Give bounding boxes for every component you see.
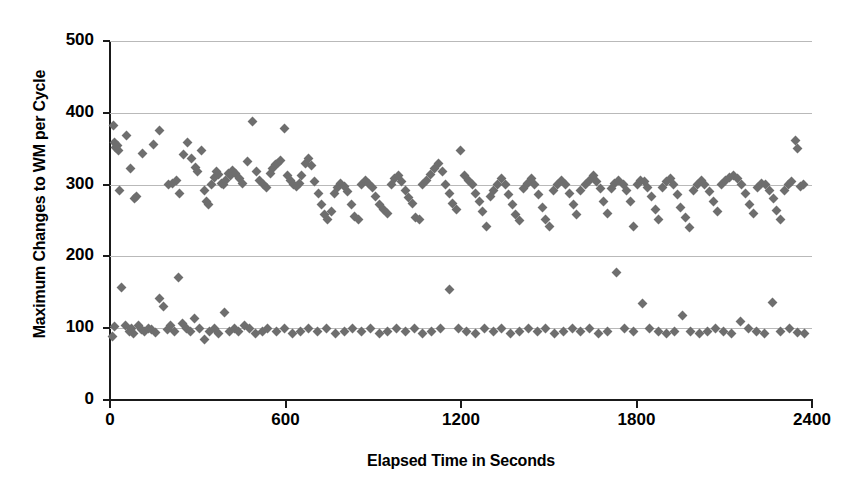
scatter-point: [545, 221, 555, 231]
x-tick-2400: [811, 401, 813, 408]
scatter-point: [195, 323, 205, 333]
scatter-point: [444, 188, 454, 198]
scatter-point: [735, 316, 745, 326]
scatter-point: [455, 145, 465, 155]
scatter-point: [151, 328, 161, 338]
scatter-point: [541, 323, 551, 333]
scatter-point: [497, 323, 507, 333]
scatter-point: [672, 190, 682, 200]
x-tick-1200: [460, 401, 462, 408]
scatter-point: [530, 180, 540, 190]
scatter-point: [117, 283, 127, 293]
scatter-point: [173, 273, 183, 283]
scatter-point: [650, 204, 660, 214]
scatter-point: [109, 121, 119, 131]
y-tick-label-300: 300: [34, 174, 94, 194]
scatter-point: [684, 223, 694, 233]
scatter-point: [508, 200, 518, 210]
y-tick-label-0: 0: [34, 389, 94, 409]
x-tick-label-2400: 2400: [772, 410, 852, 430]
scatter-point: [183, 138, 193, 148]
y-tick-300: [103, 184, 110, 186]
scatter-point: [595, 184, 605, 194]
scatter-point: [676, 203, 686, 213]
scatter-point: [444, 284, 454, 294]
scatter-point: [654, 214, 664, 224]
scatter-point: [478, 207, 488, 217]
scatter-point: [313, 188, 323, 198]
scatter-point: [204, 200, 214, 210]
y-tick-label-100: 100: [34, 317, 94, 337]
y-tick-100: [103, 327, 110, 329]
scatter-point: [670, 326, 680, 336]
scatter-point: [279, 124, 289, 134]
x-axis-title: Elapsed Time in Seconds: [110, 452, 812, 470]
scatter-point: [760, 329, 770, 339]
scatter-point: [568, 200, 578, 210]
scatter-point: [585, 323, 595, 333]
scatter-point: [481, 221, 491, 231]
scatter-point: [316, 200, 326, 210]
scatter-point: [310, 177, 320, 187]
scatter-point: [365, 323, 375, 333]
scatter-point: [708, 197, 718, 207]
scatter-point: [647, 191, 657, 201]
scatter-point: [669, 180, 679, 190]
y-tick-label-400: 400: [34, 102, 94, 122]
scatter-point: [572, 210, 582, 220]
scatter-point: [712, 207, 722, 217]
scatter-point: [602, 326, 612, 336]
scatter-point: [321, 323, 331, 333]
x-tick-label-1800: 1800: [597, 410, 677, 430]
x-tick-label-600: 600: [246, 410, 326, 430]
scatter-point: [247, 116, 257, 126]
scatter-point: [740, 188, 750, 198]
scatter-point: [629, 221, 639, 231]
scatter-point: [436, 323, 446, 333]
scatter-point: [686, 326, 696, 336]
scatter-point: [602, 208, 612, 218]
scatter-point: [768, 297, 778, 307]
scatter-point: [534, 190, 544, 200]
scatter-point: [126, 164, 136, 174]
scatter-point: [793, 144, 803, 154]
scatter-point: [214, 329, 224, 339]
scatter-point: [474, 197, 484, 207]
scatter-point: [564, 188, 574, 198]
y-axis-title: Maximum Changes to WM per Cycle: [31, 4, 49, 404]
x-tick-0: [109, 401, 111, 408]
scatter-point: [122, 131, 132, 141]
scatter-point: [110, 322, 120, 332]
scatter-point: [629, 326, 639, 336]
scatter-point: [159, 302, 169, 312]
scatter-point: [678, 310, 688, 320]
x-tick-600: [285, 401, 287, 408]
y-tick-label-500: 500: [34, 30, 94, 50]
scatter-point: [537, 203, 547, 213]
scatter-point: [501, 180, 511, 190]
scatter-point: [471, 329, 481, 339]
scatter-point: [155, 125, 165, 135]
scatter-point: [343, 187, 353, 197]
scatter-point: [680, 213, 690, 223]
scatter-point: [199, 335, 209, 345]
scatter-point: [768, 194, 778, 204]
scatter-point: [307, 161, 317, 171]
scatter-point: [749, 208, 759, 218]
scatter-point: [196, 145, 206, 155]
scatter-point: [727, 329, 737, 339]
x-tick-label-1200: 1200: [421, 410, 501, 430]
scatter-point: [599, 197, 609, 207]
y-tick-400: [103, 112, 110, 114]
y-tick-500: [103, 40, 110, 42]
scatter-point: [149, 139, 159, 149]
scatter-point: [190, 313, 200, 323]
scatter-point: [504, 190, 514, 200]
y-tick-label-200: 200: [34, 245, 94, 265]
y-tick-200: [103, 255, 110, 257]
x-tick-1800: [636, 401, 638, 408]
scatter-point: [174, 188, 184, 198]
scatter-point: [193, 167, 203, 177]
scatter-point: [137, 148, 147, 158]
scatter-point: [637, 299, 647, 309]
